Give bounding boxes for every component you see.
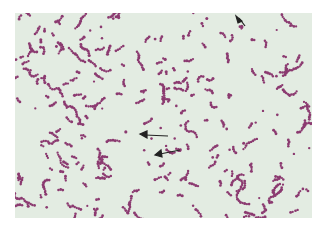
- cell-field: [15, 13, 312, 218]
- arrow-icon: [145, 135, 168, 136]
- arrow-group: [140, 16, 245, 157]
- arrow-head-icon: [236, 16, 242, 23]
- bacteria-micrograph: [15, 13, 312, 218]
- arrow-head-icon: [140, 131, 147, 138]
- arrow-head-icon: [155, 150, 162, 157]
